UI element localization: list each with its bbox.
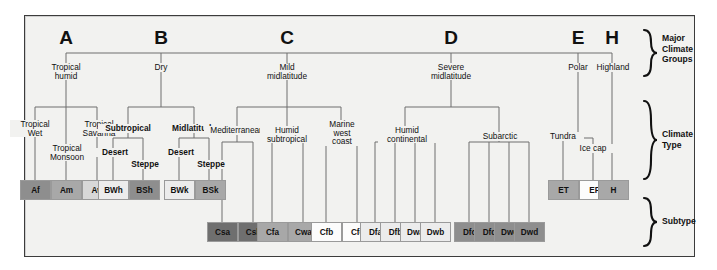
figure-frame	[24, 15, 695, 257]
climate-classification-figure: MajorClimateGroups ClimateType Subtype A…	[0, 0, 717, 270]
